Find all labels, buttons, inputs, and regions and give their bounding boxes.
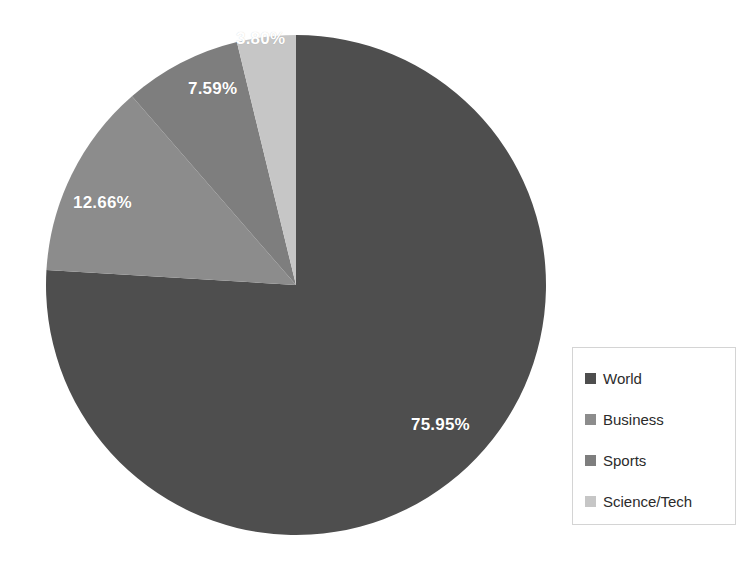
legend-item-business[interactable]: Business [573,399,735,440]
pie-svg [0,0,572,572]
slice-label-science-tech: 3.80% [236,30,285,47]
legend-item-label: Business [603,412,664,427]
slice-label-world: 75.95% [411,416,470,433]
pie-slices-group [46,35,546,535]
legend-item-label: Science/Tech [603,494,692,509]
legend-swatch-icon [585,373,596,384]
pie-chart: 75.95% 12.66% 7.59% 3.80% World Business… [0,0,747,572]
chart-legend: World Business Sports Science/Tech [572,347,736,525]
legend-item-world[interactable]: World [573,358,735,399]
legend-swatch-icon [585,455,596,466]
legend-item-science-tech[interactable]: Science/Tech [573,481,735,522]
slice-label-business: 12.66% [73,194,132,211]
pie-plot-area: 75.95% 12.66% 7.59% 3.80% [0,0,572,572]
legend-swatch-icon [585,496,596,507]
slice-label-sports: 7.59% [188,80,237,97]
legend-swatch-icon [585,414,596,425]
legend-item-label: Sports [603,453,646,468]
legend-item-sports[interactable]: Sports [573,440,735,481]
legend-item-label: World [603,371,642,386]
